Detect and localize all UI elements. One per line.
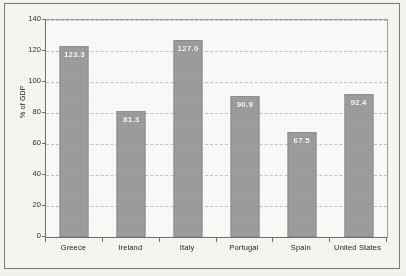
bar-value-label: 90.9: [231, 100, 258, 109]
bar[interactable]: 90.9: [230, 96, 259, 237]
y-axis-tick-label: 100: [1, 76, 41, 85]
bar[interactable]: 127.0: [174, 40, 203, 237]
bar-slot: 81.3: [103, 20, 160, 237]
plot-area: 123.381.3127.090.967.592.4: [45, 19, 388, 238]
y-axis-tick-label: 20: [1, 200, 41, 209]
bar-slot: 127.0: [160, 20, 217, 237]
y-axis-tick-mark: [42, 81, 45, 82]
bar-value-label: 127.0: [175, 44, 202, 53]
y-axis-tick-label: 140: [1, 14, 41, 23]
x-axis-tick-mark: [159, 238, 160, 242]
x-axis-tick-label: Greece: [45, 243, 102, 252]
x-axis-tick-mark: [216, 238, 217, 242]
bar[interactable]: 123.3: [60, 46, 89, 237]
chart-figure: % of GDP 123.381.3127.090.967.592.4 0204…: [0, 0, 406, 276]
y-axis-tick-mark: [42, 143, 45, 144]
bar[interactable]: 67.5: [287, 132, 316, 237]
x-axis-tick-label: Italy: [159, 243, 216, 252]
x-axis-tick-label: Spain: [272, 243, 329, 252]
bar-value-label: 123.3: [61, 50, 88, 59]
y-axis-tick-label: 120: [1, 45, 41, 54]
bar-value-label: 81.3: [118, 115, 145, 124]
x-axis-tick-mark: [102, 238, 103, 242]
x-axis-tick-label: Ireland: [102, 243, 159, 252]
bar-value-label: 92.4: [345, 98, 372, 107]
bar[interactable]: 92.4: [344, 94, 373, 237]
y-axis-tick-label: 0: [1, 231, 41, 240]
bar[interactable]: 81.3: [117, 111, 146, 237]
x-axis-tick-mark: [329, 238, 330, 242]
bar-slot: 67.5: [273, 20, 330, 237]
bar-series: 123.381.3127.090.967.592.4: [46, 20, 387, 237]
x-axis-tick-label: United States: [329, 243, 386, 252]
x-axis-tick-mark: [386, 238, 387, 242]
bar-slot: 92.4: [330, 20, 387, 237]
x-axis-tick-label: Portugal: [216, 243, 273, 252]
bar-value-label: 67.5: [288, 136, 315, 145]
y-axis-tick-label: 40: [1, 169, 41, 178]
y-axis-tick-mark: [42, 174, 45, 175]
y-axis-tick-mark: [42, 19, 45, 20]
y-axis-tick-mark: [42, 50, 45, 51]
y-axis-tick-mark: [42, 112, 45, 113]
y-axis-tick-label: 80: [1, 107, 41, 116]
y-axis-tick-label: 60: [1, 138, 41, 147]
y-axis-tick-mark: [42, 205, 45, 206]
x-axis-tick-mark: [272, 238, 273, 242]
bar-slot: 90.9: [217, 20, 274, 237]
x-axis-tick-mark: [45, 238, 46, 242]
y-axis-tick-mark: [42, 236, 45, 237]
bar-slot: 123.3: [46, 20, 103, 237]
